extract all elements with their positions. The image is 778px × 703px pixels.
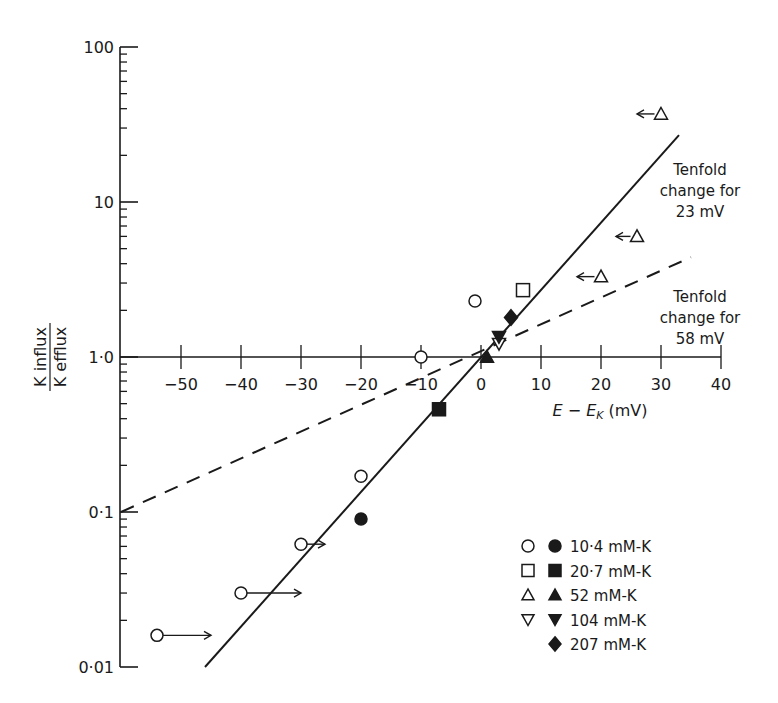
y-tick-label: 10 bbox=[94, 193, 114, 212]
legend-open-square-icon bbox=[522, 565, 534, 577]
filled-diamond-point bbox=[505, 310, 518, 326]
axes: 0·010·11·010100−50−40−30−20−10010203040 bbox=[78, 38, 731, 677]
legend-open-triangle-down-icon bbox=[522, 615, 534, 626]
legend-label: 10·4 mM-K bbox=[570, 538, 652, 556]
open-circle-point bbox=[295, 538, 307, 550]
x-tick-label: 10 bbox=[531, 375, 551, 394]
legend: 10·4 mM-K20·7 mM-K52 mM-K104 mM-K207 mM-… bbox=[522, 538, 652, 654]
legend-filled-square-icon bbox=[549, 565, 561, 577]
annotation-line: change for bbox=[660, 309, 741, 327]
legend-open-triangle-up-icon bbox=[522, 589, 534, 600]
x-tick-label: −20 bbox=[344, 375, 378, 394]
y-tick-label: 0·1 bbox=[89, 503, 114, 522]
legend-label: 52 mM-K bbox=[570, 587, 638, 605]
y-tick-label: 1·0 bbox=[89, 348, 114, 367]
x-tick-label: 30 bbox=[651, 375, 671, 394]
annotation-line: 58 mV bbox=[676, 330, 725, 348]
x-tick-label: 0 bbox=[476, 375, 486, 394]
x-tick-label: −40 bbox=[224, 375, 258, 394]
filled-square-point bbox=[433, 403, 446, 416]
open-circle-point bbox=[469, 295, 481, 307]
x-tick-label: 20 bbox=[591, 375, 611, 394]
legend-filled-triangle-up-icon bbox=[549, 589, 561, 600]
filled-circle-point bbox=[355, 513, 367, 525]
legend-label: 104 mM-K bbox=[570, 612, 647, 630]
legend-filled-circle-icon bbox=[549, 540, 561, 552]
x-tick-label: −10 bbox=[404, 375, 438, 394]
x-tick-label: −50 bbox=[164, 375, 198, 394]
legend-filled-triangle-down-icon bbox=[549, 615, 561, 626]
x-tick-label: −30 bbox=[284, 375, 318, 394]
x-axis-title: E − EK (mV) bbox=[552, 401, 647, 422]
legend-filled-diamond-icon bbox=[549, 637, 561, 651]
open-triangle-up-point bbox=[595, 270, 608, 282]
y-tick-label: 100 bbox=[83, 38, 114, 57]
annotation-line: Tenfold bbox=[672, 288, 727, 306]
legend-open-circle-icon bbox=[522, 540, 534, 552]
open-circle-point bbox=[355, 470, 367, 482]
legend-label: 207 mM-K bbox=[570, 636, 647, 654]
y-axis-numerator: K influx bbox=[31, 327, 50, 387]
y-tick-label: 0·01 bbox=[78, 658, 114, 677]
annotation-line: Tenfold bbox=[672, 161, 727, 179]
line-annotations: Tenfoldchange for23 mVTenfoldchange for5… bbox=[660, 161, 741, 348]
open-circle-point bbox=[235, 587, 247, 599]
annotation-line: 23 mV bbox=[676, 203, 725, 221]
x-tick-label: 40 bbox=[711, 375, 731, 394]
open-circle-point bbox=[151, 629, 163, 641]
open-circle-point bbox=[415, 351, 427, 363]
open-triangle-up-point bbox=[631, 230, 644, 242]
y-axis-title: K influxK efflux bbox=[31, 323, 70, 391]
open-triangle-up-point bbox=[655, 107, 668, 119]
legend-label: 20·7 mM-K bbox=[570, 563, 652, 581]
chart-figure: 0·010·11·010100−50−40−30−20−10010203040 … bbox=[0, 0, 778, 703]
open-square-point bbox=[517, 284, 530, 297]
y-axis-denominator: K efflux bbox=[51, 327, 70, 388]
annotation-line: change for bbox=[660, 182, 741, 200]
